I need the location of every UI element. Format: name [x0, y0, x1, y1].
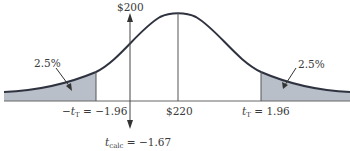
top-value-label: $200	[117, 2, 144, 13]
right-tail-percent: 2.5%	[298, 59, 325, 70]
arrow-up-head-icon	[127, 13, 133, 22]
distribution-graphic	[0, 0, 350, 151]
normal-distribution-diagram: $200 2.5% 2.5% −tT = −1.96 $220 tT = 1.9…	[0, 0, 350, 151]
left-critical-label: −tT = −1.96	[62, 106, 127, 119]
arrow-down-head-icon	[127, 120, 133, 129]
bell-curve	[4, 13, 350, 92]
mean-label: $220	[166, 106, 193, 117]
left-tail-percent: 2.5%	[34, 58, 61, 69]
calculated-t-label: tcalc = −1.67	[105, 137, 171, 150]
right-critical-label: tT = 1.96	[242, 106, 290, 119]
